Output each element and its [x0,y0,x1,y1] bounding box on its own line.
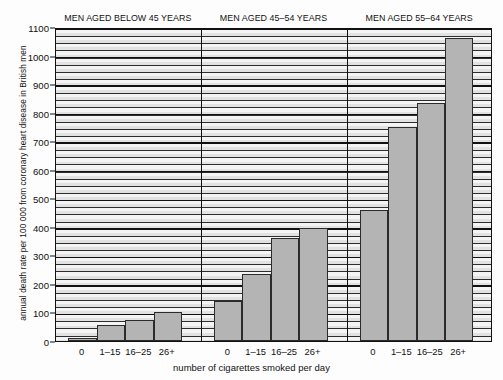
bar [360,210,388,341]
bar [299,228,327,341]
panel-title: MEN AGED 45–54 YEARS [201,13,347,23]
x-tick-label: 0 [225,346,230,357]
x-tick-label: 1–15 [391,346,412,357]
major-gridline [56,57,491,59]
bar [125,320,153,341]
bar [214,301,242,341]
plot-area [55,28,492,342]
x-tick-label: 16–25 [125,346,151,357]
bar [388,127,416,341]
panel-divider [201,29,203,341]
x-tick-label: 26+ [159,346,175,357]
bar [154,312,182,341]
chart-figure: annual death rate per 100 000 from coron… [0,0,503,380]
bar [271,238,299,341]
y-tick-label: 600 [33,165,49,176]
x-tick-label: 1–15 [100,346,121,357]
y-tick-label: 900 [33,80,49,91]
y-tick-label: 400 [33,222,49,233]
x-tick-label: 26+ [450,346,466,357]
y-tick-label: 0 [44,337,49,348]
panel-divider [347,29,349,341]
bar [242,274,270,341]
y-tick-label: 1000 [28,51,49,62]
x-tick-label: 0 [370,346,375,357]
y-tick-label: 700 [33,137,49,148]
x-axis-title: number of cigarettes smoked per day [0,362,503,373]
panel-title: MEN AGED BELOW 45 YEARS [55,13,201,23]
x-tick-label: 1–15 [245,346,266,357]
x-tick-label: 16–25 [271,346,297,357]
y-tick-label: 800 [33,108,49,119]
panel-title: MEN AGED 55–64 YEARS [346,13,492,23]
major-gridline [56,28,491,30]
x-tick-label: 26+ [305,346,321,357]
bar [417,103,445,341]
y-tick-label: 100 [33,308,49,319]
y-axis-tick-labels: 010020030040050060070080090010001100 [24,28,55,342]
bar [97,325,125,341]
y-tick-label: 500 [33,194,49,205]
y-tick-label: 200 [33,279,49,290]
x-tick-label: 0 [79,346,84,357]
x-tick-label: 16–25 [417,346,443,357]
y-tick-label: 300 [33,251,49,262]
bar [445,38,473,341]
major-gridline [56,85,491,87]
bar [68,338,96,341]
y-tick-label: 1100 [28,23,49,34]
